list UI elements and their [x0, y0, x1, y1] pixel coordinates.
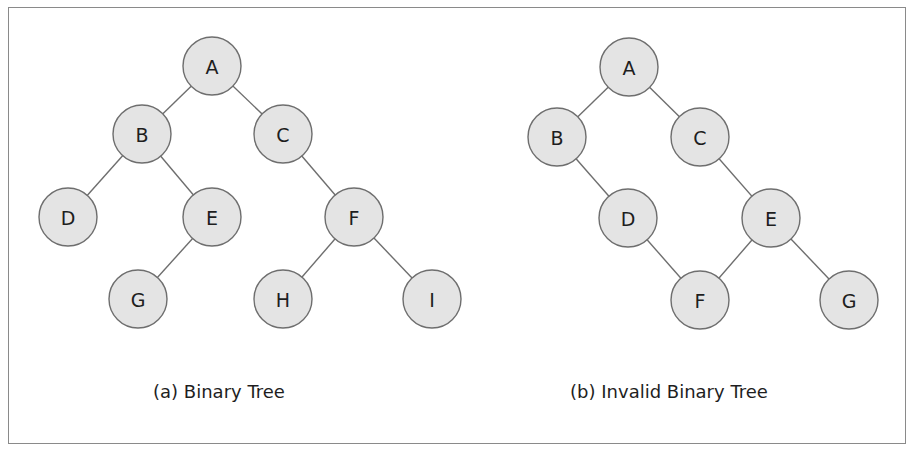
tree-node-c: C [254, 105, 312, 163]
tree-node-h: H [254, 270, 312, 328]
tree-node-f: F [325, 188, 383, 246]
caption-invalid-binary-tree: (b) Invalid Binary Tree [570, 381, 768, 402]
node-label: B [550, 127, 563, 149]
node-label: E [765, 208, 777, 230]
tree-node-g: G [109, 270, 167, 328]
panel-b-nodes: ABCDEFG [528, 38, 878, 329]
node-label: G [842, 290, 857, 312]
panel-b-invalid-binary-tree: ABCDEFG [528, 38, 878, 329]
node-label: F [349, 207, 360, 229]
panel-b-edges [557, 67, 849, 300]
caption-binary-tree: (a) Binary Tree [153, 381, 285, 402]
node-label: E [206, 207, 218, 229]
node-label: F [695, 290, 706, 312]
panel-a-edges [68, 66, 432, 299]
node-label: H [276, 289, 290, 311]
tree-diagram: ABCDEFGHI ABCDEFG [0, 0, 917, 454]
node-label: C [693, 127, 706, 149]
node-label: D [621, 208, 636, 230]
node-label: A [206, 56, 219, 78]
tree-node-e: E [183, 188, 241, 246]
tree-node-f: F [671, 271, 729, 329]
node-label: C [276, 124, 289, 146]
tree-node-g: G [820, 271, 878, 329]
panel-a-binary-tree: ABCDEFGHI [39, 37, 461, 328]
tree-node-d: D [39, 188, 97, 246]
tree-node-e: E [742, 189, 800, 247]
tree-node-a: A [183, 37, 241, 95]
panel-a-nodes: ABCDEFGHI [39, 37, 461, 328]
tree-node-c: C [671, 108, 729, 166]
node-label: B [135, 124, 148, 146]
node-label: A [623, 57, 636, 79]
tree-node-b: B [528, 108, 586, 166]
tree-node-b: B [113, 105, 171, 163]
tree-node-a: A [600, 38, 658, 96]
tree-node-d: D [599, 189, 657, 247]
node-label: G [131, 289, 146, 311]
tree-node-i: I [403, 270, 461, 328]
node-label: D [61, 207, 76, 229]
node-label: I [429, 289, 435, 311]
